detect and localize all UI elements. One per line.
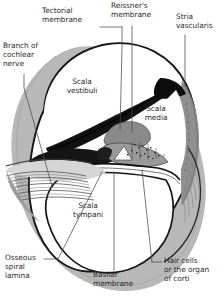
label-reissners-membrane: Reissner's membrane	[111, 1, 151, 19]
label-scala-media: Scala media	[136, 104, 176, 122]
label-hair-cells-organ-of-corti: Hair cells or the organ of corti	[164, 256, 209, 284]
label-branch-of-cochlear-nerve: Branch of cochlear nerve	[3, 41, 38, 69]
label-scala-tympani: Scala tympani	[66, 201, 110, 219]
cochlea-cross-section-figure: Tectorial membrane Reissner's membrane S…	[0, 0, 218, 304]
label-tectorial-membrane: Tectorial membrane	[42, 6, 82, 24]
label-basilar-membrane: Basilar membrane	[93, 270, 133, 288]
label-osseous-spiral-lamina: Osseous spiral lamina	[5, 253, 36, 281]
label-scala-vestibuli: Scala vestibuli	[60, 77, 104, 95]
label-stria-vascularis: Stria vascularis	[176, 12, 212, 30]
